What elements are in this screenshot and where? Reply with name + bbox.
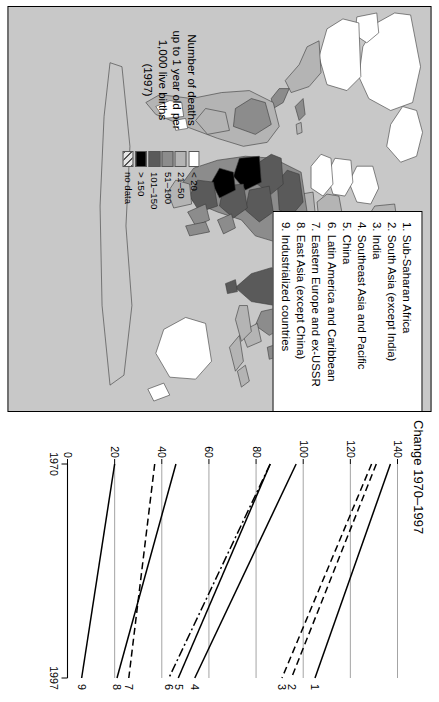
series-label-3: 3 [276, 684, 288, 690]
y-tick-0: 0 [61, 426, 73, 458]
world-map-panel: Number of deaths up to 1 year old per 1,… [7, 6, 431, 412]
legend-item-8: 8. East Asia (except China) [292, 222, 307, 412]
map-legend-row: 101–150 [147, 151, 160, 209]
map-legend-row: 51–100 [160, 151, 173, 209]
change-line-chart-panel: Change 1970–1997 020406080100120140 1234… [7, 418, 431, 696]
legend-item-1: 1. Sub-Saharan Africa [398, 222, 413, 412]
y-tick-40: 40 [155, 426, 167, 458]
map-legend-title-line-2: up to 1 year old per [169, 17, 184, 143]
map-legend-row: < 20 [187, 151, 200, 209]
map-legend-row: > 150 [134, 151, 147, 209]
series-line-8 [117, 464, 176, 678]
swatch-label-no-data: no data [122, 172, 133, 204]
series-label-6: 6 [162, 684, 174, 690]
legend-item-7: 7. Eastern Europe and ex-USSR [307, 222, 322, 412]
swatch-101-150 [148, 151, 160, 167]
x-tick-1997: 1997 [47, 666, 59, 690]
series-label-7: 7 [122, 684, 134, 690]
figure-root: Number of deaths up to 1 year old per 1,… [0, 0, 439, 702]
legend-item-4: 4. Southeast Asia and Pacific [353, 222, 368, 412]
map-legend: Number of deaths up to 1 year old per 1,… [140, 17, 198, 213]
map-legend-swatches: < 20 21–50 51–100 101–150 > 150 [121, 151, 200, 209]
swatch-label-21-50: 21–50 [175, 172, 186, 199]
swatch-lt20 [188, 151, 200, 167]
series-line-9 [81, 464, 114, 678]
legend-item-3: 3. India [368, 222, 383, 412]
swatch-gt150 [135, 151, 147, 167]
legend-item-2: 2. South Asia (except India) [383, 222, 398, 412]
chart-plot-area: 123456789 [67, 464, 397, 678]
map-legend-title-line-3: 1,000 live births [155, 17, 170, 143]
x-tick-1970: 1970 [47, 452, 59, 476]
map-legend-title-line-4: (1997) [140, 17, 155, 143]
swatch-51-100 [161, 151, 173, 167]
swatch-label-gt150: > 150 [135, 172, 146, 196]
series-label-4: 4 [188, 684, 200, 690]
y-tick-20: 20 [108, 426, 120, 458]
series-line-7 [128, 464, 154, 678]
swatch-21-50 [174, 151, 186, 167]
region-legend-box: 1. Sub-Saharan Africa 2. South Asia (exc… [272, 211, 422, 412]
swatch-no-data [122, 151, 134, 167]
series-line-1 [315, 464, 390, 678]
series-label-8: 8 [111, 684, 123, 690]
y-axis-ticklabels: 020406080100120140 [67, 418, 397, 458]
y-tick-60: 60 [202, 426, 214, 458]
series-label-9: 9 [75, 684, 87, 690]
y-tick-120: 120 [344, 426, 356, 458]
legend-item-9: 9. Industrialized countries [277, 222, 292, 412]
series-label-1: 1 [309, 684, 321, 690]
legend-item-5: 5. China [338, 222, 353, 412]
x-axis-ticklabels: 19701997 [43, 464, 59, 678]
y-tick-140: 140 [391, 426, 403, 458]
map-legend-row: no data [121, 151, 134, 209]
y-tick-100: 100 [297, 426, 309, 458]
series-line-6 [168, 464, 269, 678]
chart-lines [67, 464, 397, 678]
map-legend-row: 21–50 [174, 151, 187, 209]
map-legend-title: Number of deaths up to 1 year old per 1,… [140, 17, 198, 143]
y-tick-80: 80 [250, 426, 262, 458]
map-legend-title-line-1: Number of deaths [184, 17, 199, 143]
swatch-label-101-150: 101–150 [148, 172, 159, 209]
series-line-4 [194, 464, 295, 678]
legend-item-6: 6. Latin America and Caribbean [322, 222, 337, 412]
swatch-label-51-100: 51–100 [162, 172, 173, 204]
swatch-label-lt20: < 20 [188, 172, 199, 191]
chart-title: Change 1970–1997 [410, 420, 425, 534]
